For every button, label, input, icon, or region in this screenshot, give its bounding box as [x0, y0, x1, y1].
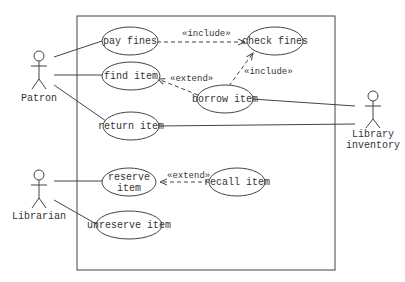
actor-library-inventory-icon[interactable]	[365, 91, 381, 128]
unreserve-item-label: unreserve item	[87, 220, 171, 231]
extend-label-1: «extend»	[170, 74, 213, 84]
check-fines-label: check fines	[242, 36, 308, 47]
actor-library-inventory-label-1: Library	[352, 129, 394, 140]
actor-patron-label: Patron	[21, 93, 57, 104]
dependency-lines	[157, 42, 253, 182]
borrow-item-label: borrow item	[192, 94, 258, 105]
include-label-1: «include»	[182, 29, 231, 39]
actor-librarian-label: Librarian	[12, 211, 66, 222]
recall-item-label: recall item	[204, 177, 270, 188]
use-case-diagram: «include» «include» «extend» «extend» pa…	[0, 0, 405, 282]
association-lines	[54, 41, 355, 225]
include-label-2: «include»	[244, 67, 293, 77]
return-item-label: return item	[98, 121, 164, 132]
actor-patron-icon[interactable]	[31, 51, 47, 89]
find-item-label: find item	[104, 71, 158, 82]
actor-librarian-icon[interactable]	[31, 170, 47, 208]
pay-fines-label: pay fines	[103, 36, 157, 47]
reserve-item-label-2: item	[117, 183, 141, 194]
actor-library-inventory-label-2: inventory	[346, 140, 400, 151]
reserve-item-label-1: reserve	[108, 172, 150, 183]
